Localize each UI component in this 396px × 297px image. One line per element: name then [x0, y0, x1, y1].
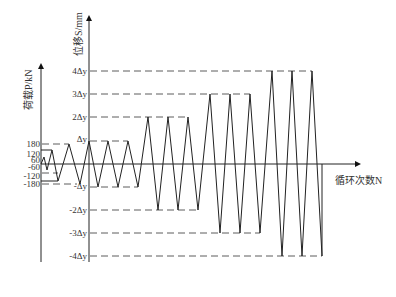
svg-text:-2Δy: -2Δy: [69, 205, 87, 215]
load-axis-label: 荷载P/kN: [23, 69, 34, 110]
loading-protocol-diagram: 荷载P/kN 位移S/mm 循环次数N 180 120 60 -60 -120 …: [0, 0, 396, 297]
svg-text:3Δy: 3Δy: [72, 89, 87, 99]
svg-text:-4Δy: -4Δy: [69, 251, 87, 261]
cycles-axis-label: 循环次数N: [335, 174, 382, 186]
svg-text:2Δy: 2Δy: [72, 112, 87, 122]
displacement-axis-label: 位移S/mm: [72, 12, 84, 56]
svg-text:Δy: Δy: [77, 134, 88, 144]
load-ticks: 180 120 60 -60 -120 -180: [24, 139, 41, 189]
svg-text:-180: -180: [24, 179, 41, 189]
svg-text:-3Δy: -3Δy: [69, 228, 87, 238]
svg-text:4Δy: 4Δy: [72, 66, 87, 76]
svg-text:180: 180: [27, 139, 41, 149]
